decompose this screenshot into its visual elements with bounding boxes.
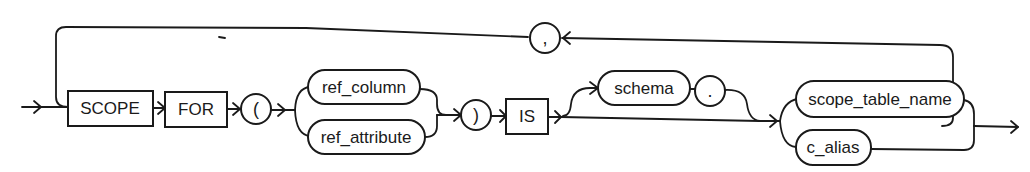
svg-text:ref_attribute: ref_attribute <box>321 128 412 147</box>
comma-terminal: , <box>530 23 560 53</box>
close-paren-terminal: ) <box>461 100 491 130</box>
keyword-for: FOR <box>165 92 227 127</box>
svg-text:IS: IS <box>519 107 535 126</box>
nonterminal-ref-column: ref_column <box>308 70 420 104</box>
svg-text:.: . <box>707 81 712 101</box>
keyword-scope: SCOPE <box>68 91 153 126</box>
svg-text:scope_table_name: scope_table_name <box>808 90 952 109</box>
svg-text:ref_column: ref_column <box>322 78 406 97</box>
nonterminal-ref-attribute: ref_attribute <box>308 120 425 154</box>
nonterminal-c-alias: c_alias <box>796 130 871 165</box>
svg-text:): ) <box>473 105 479 125</box>
svg-text:SCOPE: SCOPE <box>80 99 140 118</box>
scope-for-syntax-diagram: , SCOPE FOR ( ref_column ref_attribute ) <box>0 0 1030 172</box>
comma-symbol: , <box>542 28 547 48</box>
exit-arrow <box>974 121 1018 133</box>
open-paren-terminal: ( <box>241 94 271 124</box>
svg-text:(: ( <box>253 99 259 119</box>
keyword-is: IS <box>506 99 548 134</box>
svg-text:FOR: FOR <box>178 100 214 119</box>
dot-terminal: . <box>695 76 725 106</box>
svg-text:schema: schema <box>614 79 674 98</box>
entry-arrow <box>22 101 68 113</box>
nonterminal-schema: schema <box>598 71 690 105</box>
nonterminal-scope-table-name: scope_table_name <box>796 81 964 117</box>
svg-text:c_alias: c_alias <box>807 138 860 157</box>
